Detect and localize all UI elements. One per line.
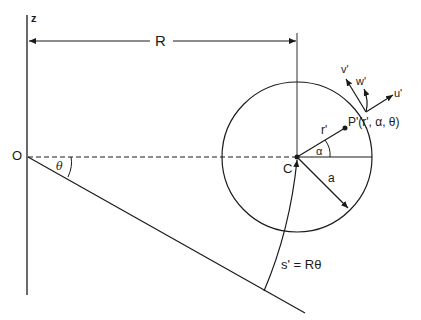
- v-prime-label: v': [341, 63, 349, 75]
- slanted-line: [28, 157, 305, 313]
- a-radius-arrow: [297, 157, 348, 208]
- theta-label: θ: [56, 160, 63, 173]
- alpha-label: α: [316, 145, 323, 157]
- w-prime-label: w': [355, 75, 366, 87]
- point-p-label: P'(r', α, θ): [348, 115, 400, 129]
- r-prime-label: r': [321, 123, 327, 137]
- point-p-dot: [343, 126, 348, 131]
- center-label: C: [283, 161, 292, 176]
- alpha-angle-arc: [325, 140, 330, 157]
- theta-angle-arc: [68, 157, 72, 177]
- toroidal-coordinate-diagram: z R O θ C r' α a P'(r', α, θ) v' w' u' s…: [0, 0, 421, 320]
- u-prime-vector: [366, 95, 393, 112]
- arc-length-label: s' = Rθ: [281, 257, 321, 272]
- a-label: a: [328, 171, 335, 185]
- u-prime-label: u': [394, 87, 402, 99]
- z-axis-label: z: [31, 12, 37, 24]
- r-dimension-label: R: [155, 32, 166, 49]
- origin-label: O: [12, 148, 22, 163]
